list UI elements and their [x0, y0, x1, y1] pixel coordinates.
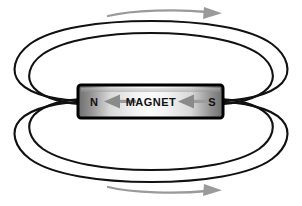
magnet-highlight: [81, 88, 220, 92]
magnet-body-label: MAGNET: [126, 96, 177, 108]
north-pole-label: N: [90, 96, 98, 108]
south-pole-label: S: [208, 96, 215, 108]
magnetic-field-diagram: N MAGNET S: [0, 0, 302, 206]
bar-magnet: N MAGNET S: [78, 85, 223, 118]
diagram-canvas: N MAGNET S: [0, 0, 302, 206]
